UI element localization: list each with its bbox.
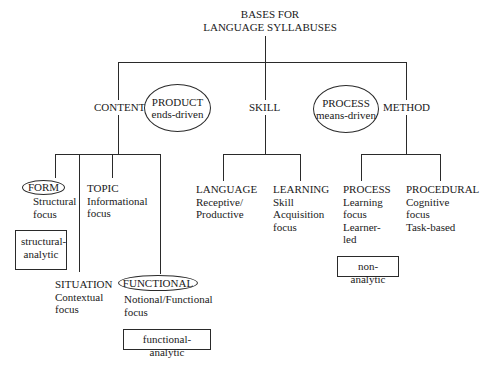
language-label: LANGUAGE <box>196 183 257 196</box>
form-description: Structural focus <box>33 195 76 220</box>
form-drop <box>55 154 56 178</box>
topic-node: TOPIC Informational focus <box>87 182 147 220</box>
language-node: LANGUAGE Receptive/ Productive <box>196 183 257 221</box>
situation-drop <box>79 154 80 272</box>
method-subdrop <box>406 115 407 154</box>
content-subbar <box>55 154 161 155</box>
procedural-label: PROCEDURAL <box>406 183 479 196</box>
process-label: PROCESS <box>343 183 391 196</box>
form-ellipse: FORM <box>22 180 65 195</box>
content-drop <box>118 62 119 100</box>
root-connector <box>265 36 266 63</box>
content-subdrop <box>118 115 119 154</box>
situation-label: SITUATION <box>55 278 112 291</box>
functional-description: Notional/Functional focus <box>124 293 213 318</box>
product-subtitle: ends-driven <box>152 108 204 121</box>
learning-node: LEARNING Skill Acquisition focus <box>273 183 329 233</box>
skill-subbar <box>223 154 301 155</box>
structural-analytic-box: structural- analytic <box>15 230 67 270</box>
method-drop <box>406 62 407 100</box>
functional-ellipse: FUNCTIONAL <box>118 275 198 291</box>
functional-label: FUNCTIONAL <box>123 277 193 290</box>
skill-subdrop <box>265 115 266 154</box>
diagram-title: BASES FOR LANGUAGE SYLLABUSES <box>185 8 355 33</box>
process-drop <box>361 154 362 181</box>
situation-node: SITUATION Contextual focus <box>55 278 112 316</box>
process-ellipse: PROCESS means-driven <box>313 85 379 133</box>
method-subbar <box>361 154 441 155</box>
learning-drop <box>300 154 301 181</box>
skill-label: SKILL <box>249 101 280 114</box>
skill-drop <box>265 62 266 100</box>
product-ellipse: PRODUCT ends-driven <box>144 84 211 132</box>
language-drop <box>223 154 224 181</box>
process-ellipse-title: PROCESS <box>322 97 370 110</box>
title-line-2: LANGUAGE SYLLABUSES <box>185 21 355 34</box>
form-label: FORM <box>28 181 59 194</box>
product-title: PRODUCT <box>152 96 203 109</box>
procedural-drop <box>440 154 441 181</box>
content-label: CONTENT <box>94 101 145 114</box>
functional-drop <box>160 154 161 274</box>
process-ellipse-subtitle: means-driven <box>316 109 376 122</box>
topic-drop <box>112 154 113 178</box>
process-node: PROCESS Learning focus Learner- led <box>343 183 391 246</box>
non-analytic-box: non-analytic <box>337 256 399 277</box>
procedural-node: PROCEDURAL Cognitive focus Task-based <box>406 183 479 233</box>
topic-label: TOPIC <box>87 182 147 195</box>
learning-label: LEARNING <box>273 183 329 196</box>
top-bar <box>118 62 407 63</box>
functional-analytic-box: functional-analytic <box>123 329 211 350</box>
method-label: METHOD <box>383 101 430 114</box>
title-line-1: BASES FOR <box>185 8 355 21</box>
